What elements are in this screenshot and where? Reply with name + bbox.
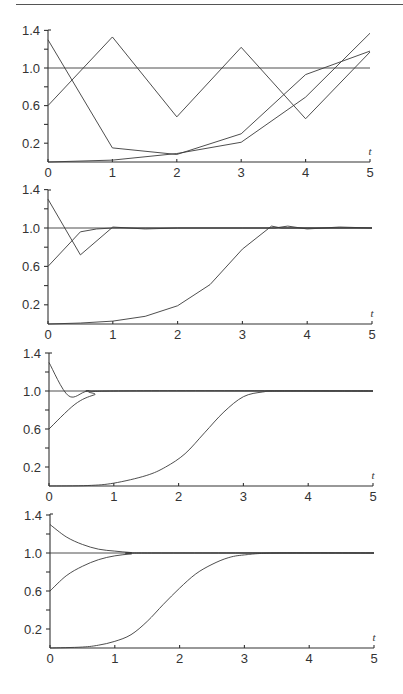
y-tick-label: 0.2 [22,136,40,151]
y-tick-label: 1.4 [22,23,40,38]
x-tick-label: 4 [304,327,311,342]
panel-2: 0.20.61.01.4012345t [22,182,376,342]
y-tick-label: 0.2 [22,297,40,312]
x-tick-label: 1 [111,651,118,666]
y-tick-label: 0.6 [24,584,42,599]
x-axis-label: t [368,145,372,157]
series-line-curve-start-1.3 [48,40,370,155]
figure: 0.20.61.01.4012345t 0.20.61.01.4012345t … [0,0,403,694]
y-tick-label: 0.6 [23,422,41,437]
x-tick-label: 0 [46,651,53,666]
y-tick-label: 1.0 [22,61,40,76]
series-line-curve-start-0.6 [48,37,370,119]
y-tick-label: 0.6 [22,259,40,274]
x-tick-label: 4 [302,165,309,180]
x-tick-label: 0 [45,489,52,504]
x-tick-label: 5 [368,327,375,342]
x-axis-label: t [371,469,375,481]
x-tick-label: 2 [174,327,181,342]
x-tick-label: 5 [366,165,373,180]
x-tick-label: 2 [176,651,183,666]
x-tick-label: 3 [238,165,245,180]
x-tick-label: 5 [369,489,376,504]
series-line-curve-start-1.3 [50,525,374,554]
x-axis-label: t [370,307,374,319]
x-tick-label: 4 [306,651,313,666]
series-line-curve-start-0 [50,553,374,648]
y-tick-label: 0.6 [22,98,40,113]
x-tick-label: 3 [239,327,246,342]
x-tick-label: 1 [109,165,116,180]
x-tick-label: 1 [110,489,117,504]
x-tick-label: 0 [44,165,51,180]
x-tick-label: 2 [175,489,182,504]
series-line-curve-start-0 [49,391,373,486]
series-line-curve-start-1.3 [49,363,373,398]
y-tick-label: 1.0 [24,546,42,561]
panel-1: 0.20.61.01.4012345t [22,23,374,180]
x-axis-label: t [372,631,376,643]
y-tick-label: 1.0 [22,221,40,236]
y-tick-label: 1.4 [24,508,42,523]
panel-3: 0.20.61.01.4012345t [23,346,377,505]
y-tick-label: 1.4 [23,346,41,361]
y-tick-label: 0.2 [23,460,41,475]
series-line-curve-start-0.6 [48,228,372,266]
series-line-curve-start-0.6 [49,391,373,429]
series-line-curve-start-0.6 [50,553,374,591]
y-tick-label: 0.2 [24,622,42,637]
series-line-curve-start-1.3 [48,199,372,255]
x-tick-label: 4 [305,489,312,504]
x-tick-label: 1 [109,327,116,342]
y-tick-label: 1.4 [22,182,40,197]
panel-4: 0.20.61.01.4012345t [24,508,378,667]
x-tick-label: 5 [370,651,377,666]
x-tick-label: 2 [173,165,180,180]
x-tick-label: 3 [240,489,247,504]
x-tick-label: 3 [241,651,248,666]
series-line-curve-start-0 [48,33,370,162]
x-tick-label: 0 [44,327,51,342]
y-tick-label: 1.0 [23,384,41,399]
